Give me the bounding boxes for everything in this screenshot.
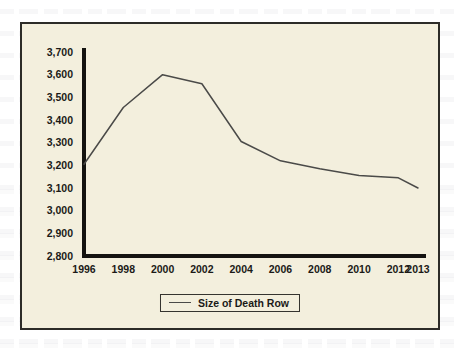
x-axis-tick-label: 2013 [406,263,430,275]
y-axis-tick-label: 3,500 [47,91,73,103]
legend-label-size-of-death-row: Size of Death Row [198,298,289,309]
x-axis-tick-label: 2004 [229,263,253,275]
line-chart-svg: 2,8002,9003,0003,1003,2003,3003,4003,500… [22,24,438,328]
y-axis-tick-label: 3,200 [47,159,73,171]
x-axis-tick-label: 2000 [151,263,175,275]
y-axis-tick-label: 2,800 [47,250,73,262]
x-axis-tick-label: 1998 [112,263,136,275]
chart-legend: Size of Death Row [160,294,300,313]
y-axis-tick-label: 3,700 [47,46,73,58]
y-axis-tick-label: 3,300 [47,136,73,148]
plot-area: 2,8002,9003,0003,1003,2003,3003,4003,500… [22,24,438,328]
data-series-line-0 [84,75,418,188]
x-axis-tick-label: 2002 [190,263,214,275]
x-axis-tick-label: 2010 [347,263,371,275]
y-axis-tick-label: 3,100 [47,182,73,194]
y-axis-tick-label: 3,600 [47,68,73,80]
y-axis-tick-label: 3,000 [47,204,73,216]
y-axis-tick-label: 3,400 [47,114,73,126]
chart-panel: 2,8002,9003,0003,1003,2003,3003,4003,500… [20,22,440,330]
x-axis-tick-label: 2008 [308,263,332,275]
x-axis-tick-label: 1996 [72,263,96,275]
x-axis-tick-label: 2006 [269,263,293,275]
y-axis-tick-label: 2,900 [47,227,73,239]
legend-line-swatch-icon [169,302,191,303]
